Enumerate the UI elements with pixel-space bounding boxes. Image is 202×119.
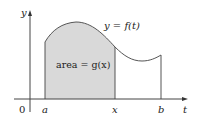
curve-label: y = f(t): [103, 20, 140, 31]
origin-label: 0: [19, 104, 25, 115]
t-axis-label: t: [183, 104, 188, 115]
tick-label-b: b: [158, 104, 164, 115]
area-function-diagram: y 0 a x b t y = f(t) area = g(x): [0, 0, 202, 119]
y-axis-arrow-icon: [28, 10, 32, 16]
area-label: area = g(x): [56, 59, 110, 70]
t-axis-arrow-icon: [182, 97, 188, 101]
tick-label-a: a: [42, 104, 48, 115]
y-axis-label: y: [20, 7, 27, 18]
tick-label-x: x: [112, 104, 118, 115]
